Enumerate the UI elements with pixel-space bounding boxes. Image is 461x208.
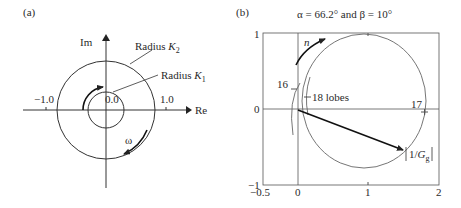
vector-label: 1/Gg — [409, 148, 430, 163]
tick-label-pos: 1.0 — [160, 93, 174, 105]
y-tick-label-neg1: −1 — [248, 179, 260, 191]
x-tick-label-1: 1 — [365, 186, 371, 198]
omega-label: ω — [125, 134, 132, 146]
y-tick-label-1: 1 — [254, 28, 260, 40]
label-18-lobes: 18 lobes — [312, 91, 349, 103]
im-axis-label: Im — [80, 36, 93, 48]
n-label: n — [304, 36, 310, 48]
vector-1-over-gg — [298, 110, 403, 150]
figure-canvas: (a) −1.0 0.0 1.0 Re Im Radius K2 Radius … — [0, 0, 461, 208]
label-17: 17 — [411, 98, 423, 110]
panel-b: (b) α = 66.2° and β = 10° −0.5 0 1 2 1 0… — [236, 6, 442, 198]
n-direction-arrow-icon — [296, 39, 325, 65]
k2-leader-line — [130, 50, 152, 64]
im-axis-arrow-icon — [102, 34, 110, 41]
panel-a-label: (a) — [23, 6, 36, 19]
panel-b-title: α = 66.2° and β = 10° — [297, 8, 392, 20]
x-tick-label-2: 2 — [436, 186, 442, 198]
label-16: 16 — [277, 78, 289, 90]
re-axis-label: Re — [195, 104, 207, 116]
inner-rotation-arrow-icon — [83, 87, 103, 110]
k1-label: Radius K1 — [161, 69, 206, 84]
re-axis-arrow-icon — [186, 106, 192, 114]
panel-b-label: (b) — [236, 6, 249, 19]
tick-label-neg: −1.0 — [34, 93, 54, 105]
k1-leader-line — [113, 75, 158, 92]
panel-a: (a) −1.0 0.0 1.0 Re Im Radius K2 Radius … — [23, 6, 207, 188]
tick-label-zero: 0.0 — [105, 93, 119, 105]
x-tick-label-0: 0 — [295, 186, 301, 198]
y-tick-label-0: 0 — [254, 103, 260, 115]
k2-label: Radius K2 — [135, 40, 180, 55]
